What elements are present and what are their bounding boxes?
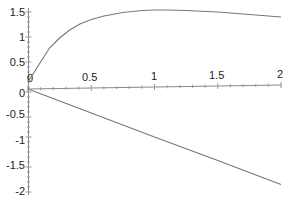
lower-y-tick-label: 0: [19, 87, 25, 99]
plot-canvas: 0 0.5 1 1.5 2 1.5 1 0.5 0 -0.5 -1 -1.5 -…: [0, 0, 292, 202]
upper-y-tick-label: 1: [19, 31, 25, 43]
lower-line: [28, 89, 281, 185]
upper-y-tick-label: 1.5: [10, 6, 25, 18]
upper-y-tick-label: 0.5: [10, 56, 25, 68]
x-tick-label: 0.5: [82, 71, 97, 83]
lower-y-tick-label: -0.5: [6, 108, 25, 120]
lower-y-tick-label: -1: [15, 134, 25, 146]
x-tick-label: 1.5: [209, 69, 224, 81]
lower-y-tick-label: -2: [15, 185, 25, 197]
lower-y-tick-label: -1.5: [6, 159, 25, 171]
x-tick-label: 2: [277, 68, 283, 80]
x-tick-label: 1: [151, 70, 157, 82]
